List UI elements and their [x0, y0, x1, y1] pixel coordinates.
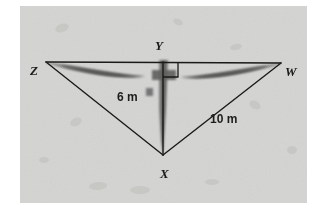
vertex-label-x: X	[160, 167, 169, 180]
vertex-label-w: W	[285, 65, 297, 78]
vertex-label-z: Z	[30, 64, 38, 77]
vertex-label-y: Y	[155, 39, 163, 52]
measure-label-xw: 10 m	[210, 113, 237, 125]
figure-container: Z Y W X 6 m 10 m	[0, 0, 325, 211]
measure-label-yx: 6 m	[117, 91, 138, 103]
glider-crossbar	[152, 70, 176, 80]
glider-pilot-nub	[146, 88, 153, 96]
